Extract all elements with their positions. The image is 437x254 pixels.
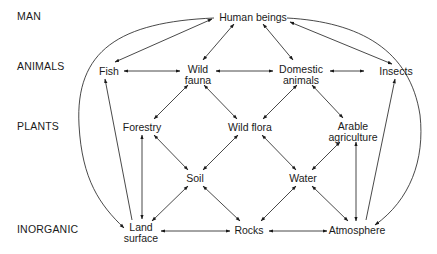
edge-arable-water bbox=[312, 142, 340, 170]
edge-insects-atmosphere bbox=[366, 79, 395, 220]
row-label-man: MAN bbox=[17, 10, 41, 22]
node-wild-flora: Wild flora bbox=[228, 122, 272, 133]
node-label-line2: surface bbox=[124, 233, 158, 244]
node-fish: Fish bbox=[99, 66, 119, 77]
node-arable-agriculture: Arable agriculture bbox=[328, 121, 377, 143]
node-wild-fauna: Wild fauna bbox=[185, 64, 211, 86]
node-label: Water bbox=[289, 173, 317, 184]
edge-human-wildfauna bbox=[203, 24, 234, 60]
edge-soil-landsurface bbox=[152, 186, 188, 221]
edge-wildflora-soil bbox=[203, 135, 238, 170]
node-forestry: Forestry bbox=[123, 122, 162, 133]
node-label: Fish bbox=[99, 66, 119, 77]
ecosystem-diagram: MAN ANIMALS PLANTS INORGANIC Human being… bbox=[0, 0, 437, 254]
edge-wildflora-water bbox=[262, 135, 296, 170]
edge-domestic-wildflora bbox=[263, 85, 297, 119]
edge-wildfauna-wildflora bbox=[204, 85, 237, 119]
node-label: Human beings bbox=[219, 12, 287, 23]
node-label-line2: agriculture bbox=[328, 132, 377, 143]
edge-forestry-soil bbox=[154, 135, 188, 170]
row-label-animals: ANIMALS bbox=[17, 60, 65, 72]
node-label: Rocks bbox=[234, 225, 263, 236]
edge-human-fish bbox=[115, 19, 212, 62]
edge-soil-rocks bbox=[203, 186, 240, 221]
node-label: Soil bbox=[186, 173, 204, 184]
node-label: Insects bbox=[379, 66, 412, 77]
node-label: Wild flora bbox=[228, 122, 272, 133]
edge-domestic-arable bbox=[312, 85, 343, 118]
node-label: Atmosphere bbox=[329, 225, 386, 236]
row-label-inorganic: INORGANIC bbox=[17, 223, 78, 235]
node-land-surface: Land surface bbox=[124, 222, 158, 244]
edge-human-domestic bbox=[263, 24, 293, 60]
node-water: Water bbox=[289, 173, 317, 184]
node-soil: Soil bbox=[186, 173, 204, 184]
node-label-line2: fauna bbox=[185, 75, 211, 86]
node-label-line2: animals bbox=[279, 75, 323, 86]
node-domestic-animals: Domestic animals bbox=[279, 64, 323, 86]
row-label-plants: PLANTS bbox=[17, 120, 59, 132]
edge-water-rocks bbox=[261, 186, 296, 221]
edge-water-atmosphere bbox=[312, 186, 348, 221]
node-atmosphere: Atmosphere bbox=[329, 225, 386, 236]
node-insects: Insects bbox=[379, 66, 412, 77]
edge-wildfauna-forestry bbox=[154, 85, 188, 119]
node-rocks: Rocks bbox=[234, 225, 263, 236]
node-human-beings: Human beings bbox=[219, 12, 287, 23]
edge-landsurface-fish bbox=[105, 79, 132, 220]
node-label: Forestry bbox=[123, 122, 162, 133]
